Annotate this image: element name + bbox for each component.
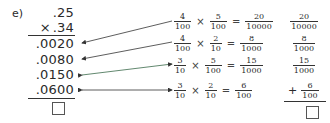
- expression-row-1: 4100 × 5100 = 2010000: [174, 10, 273, 32]
- times-sign: ×: [40, 20, 51, 35]
- sum-fraction-4: 6100: [290, 81, 330, 100]
- arrow-row-3: [82, 64, 172, 75]
- multiplier-row: × .34: [24, 20, 74, 35]
- sum-rule: [28, 98, 75, 99]
- sum-fraction-1: 2010000: [284, 12, 324, 31]
- arrow-row-1: [82, 21, 172, 43]
- arrow-row-2: [82, 42, 172, 59]
- partial-product-2: .0080: [24, 52, 74, 67]
- multiplier: .34: [53, 20, 74, 35]
- partial-product-3: .0150: [24, 67, 74, 82]
- expression-row-2: 4100 × 210 = 81000: [174, 32, 263, 54]
- sum-column-rule: [284, 101, 326, 102]
- sum-fraction-3: 151000: [284, 56, 324, 75]
- partial-product-4: .0600: [24, 82, 74, 97]
- expression-row-3: 310 × 5100 = 151000: [174, 54, 263, 76]
- problem-label: e): [12, 7, 23, 20]
- answer-box-left[interactable]: [52, 102, 65, 115]
- sum-fraction-2: 81000: [284, 34, 324, 53]
- partial-product-1: .0020: [24, 36, 74, 51]
- expression-row-4: 310 × 210 = 6100: [174, 79, 252, 101]
- answer-box-right[interactable]: [306, 106, 319, 119]
- multiplicand: .25: [24, 5, 74, 20]
